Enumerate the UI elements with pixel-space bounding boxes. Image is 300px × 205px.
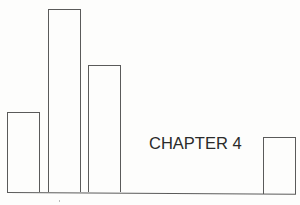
- decorative-bar-4: [263, 137, 296, 194]
- chapter-opener-page: CHAPTER 4: [0, 0, 300, 205]
- decorative-bar-2: [48, 9, 81, 192]
- decorative-bar-3: [88, 65, 121, 192]
- decorative-bar-1: [7, 112, 40, 192]
- chapter-title: CHAPTER 4: [149, 134, 242, 152]
- baseline-rule: [7, 192, 296, 195]
- scan-speck: [59, 200, 60, 202]
